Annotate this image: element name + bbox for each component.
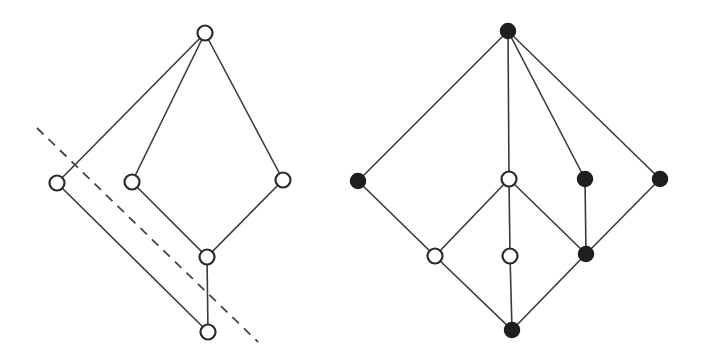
edge-u-bottom [510,256,512,330]
edge-q-u [509,179,510,256]
open-node-q [502,172,517,187]
filled-node-bottom [505,323,520,338]
dashed-cut-line [37,128,258,342]
filled-node-p [351,174,366,189]
edge-q-t [435,179,509,256]
open-node-t [428,249,443,264]
edge-top-r [508,31,585,179]
left-lattice-edges [57,33,283,332]
left-lattice-diagram [37,26,291,343]
edge-r-v [585,179,586,254]
filled-node-v [579,247,594,262]
edge-top-p [358,31,508,181]
edge-d-bottom [207,257,208,332]
left-lattice-nodes [50,26,291,340]
filled-node-s [653,172,668,187]
open-node-top [198,26,213,41]
edge-top-c [205,33,283,180]
lattice-diagrams [0,0,705,363]
edge-t-bottom [435,256,512,330]
filled-node-top [501,24,516,39]
edge-b-d [132,182,207,257]
open-node-b [125,175,140,190]
edge-a-bottom [57,183,208,332]
edge-p-t [358,181,435,256]
edge-v-bottom [512,254,586,330]
edge-s-v [586,179,660,254]
edge-top-b [132,33,205,182]
edge-top-q [508,31,509,179]
edge-q-v [509,179,586,254]
open-node-d [200,250,215,265]
filled-node-r [578,172,593,187]
open-node-c [276,173,291,188]
open-node-bottom [201,325,216,340]
edge-top-s [508,31,660,179]
edge-c-d [207,180,283,257]
open-node-a [50,176,65,191]
edge-top-a [57,33,205,183]
open-node-u [503,249,518,264]
right-lattice-diagram [351,24,668,338]
